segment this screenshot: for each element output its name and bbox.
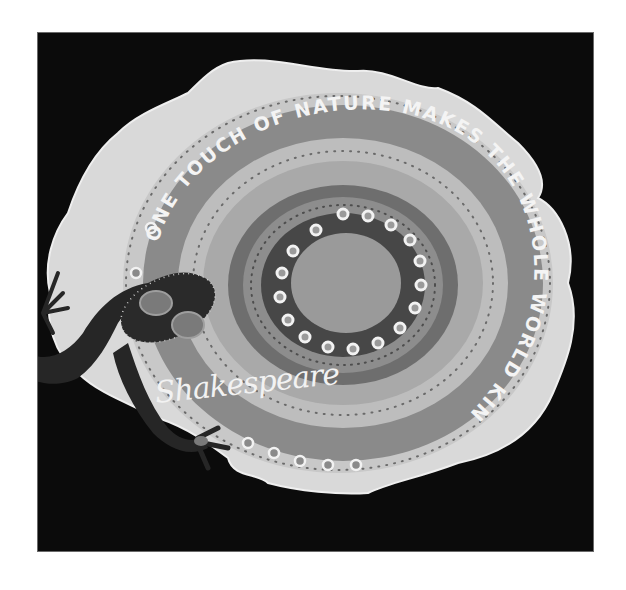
artwork-frame: ONE TOUCH OF NATURE MAKES THE WHOLE WORL… [37,32,594,552]
center-disc [291,233,401,333]
artwork-canvas: ONE TOUCH OF NATURE MAKES THE WHOLE WORL… [38,33,594,552]
